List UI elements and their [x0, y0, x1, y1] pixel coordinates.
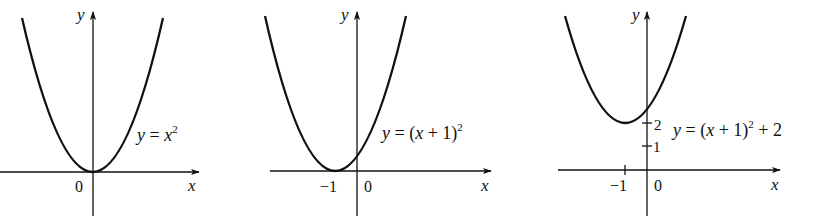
tick-label-neg1: −1 — [610, 177, 627, 194]
origin-label: 0 — [75, 178, 83, 195]
panel-y-equals-x-plus-1-squared-plus-2: y x −1 0 1 2 y = (x + 1)2 + 2 — [558, 5, 782, 216]
tick-label-neg1: −1 — [320, 178, 337, 195]
x-axis-label: x — [187, 176, 196, 195]
panel-y-equals-x-squared: y x 0 y = x2 — [0, 5, 199, 216]
parabola-curve — [565, 16, 686, 123]
y-axis-label: y — [630, 5, 640, 24]
tick-label-y2: 2 — [654, 117, 662, 133]
origin-label: 0 — [654, 177, 662, 194]
equation-label: y = (x + 1)2 + 2 — [671, 118, 782, 141]
equation-label: y = x2 — [135, 123, 178, 145]
x-axis-label: x — [770, 175, 779, 194]
y-axis-label: y — [75, 5, 85, 24]
graphs-canvas: y x 0 y = x2 y x −1 0 y = (x + 1)2 y x −… — [0, 0, 827, 216]
panel-y-equals-x-plus-1-squared: y x −1 0 y = (x + 1)2 — [265, 5, 491, 216]
origin-label: 0 — [364, 178, 372, 195]
parabola-curve — [265, 16, 406, 171]
tick-label-y1: 1 — [653, 139, 661, 155]
y-axis-label: y — [339, 5, 349, 24]
equation-label: y = (x + 1)2 — [380, 121, 463, 144]
x-axis-label: x — [480, 176, 489, 195]
